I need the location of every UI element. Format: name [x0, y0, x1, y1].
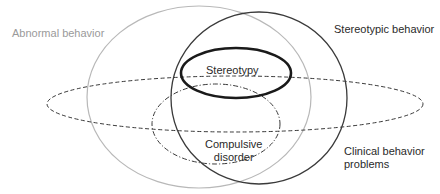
- stereotypic-behavior-label: Stereotypic behavior: [334, 23, 434, 36]
- clinical-behavior-problems-ellipse: [47, 76, 423, 132]
- compulsive-label-line-2: disorder: [205, 151, 262, 164]
- stereotypy-label: Stereotypy: [206, 64, 259, 77]
- clinical-label-line-2: problems: [344, 158, 425, 171]
- compulsive-disorder-label: Compulsive disorder: [205, 138, 262, 164]
- clinical-behavior-problems-label: Clinical behavior problems: [344, 145, 425, 171]
- abnormal-behavior-label: Abnormal behavior: [12, 27, 104, 40]
- compulsive-label-line-1: Compulsive: [205, 138, 262, 151]
- clinical-label-line-1: Clinical behavior: [344, 145, 425, 158]
